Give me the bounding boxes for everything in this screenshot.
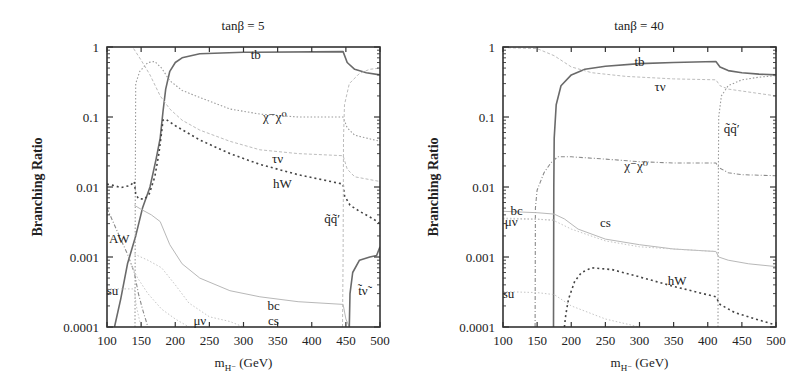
x-tick-label: 400 <box>698 333 718 348</box>
x-tick-label: 450 <box>336 333 356 348</box>
series-line-mu-nu <box>131 264 189 327</box>
curve-label-tau-nu: τν <box>654 79 665 94</box>
x-axis-label: mH⁻ (GeV) <box>215 355 273 373</box>
x-tick-label: 100 <box>97 333 117 348</box>
curve-label-chargino-neutralino: χ⁻χ⁰ <box>262 109 287 124</box>
y-tick-label: 0.0001 <box>459 320 495 335</box>
curve-label-tb: tb <box>634 54 644 69</box>
y-tick-label: 0.01 <box>472 180 495 195</box>
y-axis-label: Branching Ratio <box>426 137 441 236</box>
series-line-tb <box>554 62 777 328</box>
series-line-tb <box>115 52 381 327</box>
curve-label-chargino-neutralino: χ⁻χ⁰ <box>623 158 648 173</box>
curve-label-cs: cs <box>268 313 279 328</box>
x-axis-label-unit: (GeV) <box>236 355 272 370</box>
series-line-bc <box>134 205 349 327</box>
y-tick-label: 0.1 <box>479 110 495 125</box>
x-tick-label: 100 <box>493 333 513 348</box>
curve-label-tau-nu: τν <box>272 151 283 166</box>
x-tick-label: 400 <box>302 333 322 348</box>
x-tick-label: 500 <box>370 333 390 348</box>
curve-label-squark-squark: q̃q̃′ <box>324 211 340 226</box>
series-line-squark-squark <box>718 76 776 327</box>
curve-label-mu-nu: μν <box>193 313 206 328</box>
x-tick-label: 350 <box>664 333 684 348</box>
x-axis-label-main: m <box>611 355 621 370</box>
plot-frame <box>503 47 776 327</box>
curve-label-bc: bc <box>267 298 280 313</box>
series-line-hw <box>107 119 380 223</box>
x-tick-label: 150 <box>131 333 151 348</box>
y-tick-label: 0.1 <box>83 110 99 125</box>
x-tick-label: 500 <box>766 333 786 348</box>
curve-label-tb: tb <box>251 47 261 62</box>
x-axis-label: mH⁻ (GeV) <box>611 355 669 373</box>
x-axis-label-unit: (GeV) <box>632 355 668 370</box>
series-line-chargino-neutralino <box>535 157 776 327</box>
chart-title: tanβ = 5 <box>222 18 265 33</box>
x-axis-label-sub: H⁻ <box>225 363 236 373</box>
curve-label-hw: hW <box>273 176 293 191</box>
curve-label-stop-sneutrino: t̃ν̃ <box>358 283 373 298</box>
panel-tanbeta-5: tanβ = 510015020025030035040045050010.10… <box>30 18 390 373</box>
x-tick-label: 200 <box>166 333 186 348</box>
y-tick-label: 1 <box>489 40 496 55</box>
x-axis-label-main: m <box>215 355 225 370</box>
curve-label-hw: hW <box>668 273 688 288</box>
y-axis-label: Branching Ratio <box>30 137 45 236</box>
x-axis-label-sub: H⁻ <box>621 363 632 373</box>
series-line-su <box>503 292 640 327</box>
y-tick-label: 0.01 <box>76 180 99 195</box>
curve-label-mu-nu: μν <box>505 214 518 229</box>
curve-label-su: su <box>503 286 515 301</box>
x-tick-label: 150 <box>527 333 547 348</box>
x-tick-label: 250 <box>596 333 616 348</box>
x-tick-label: 300 <box>630 333 650 348</box>
series-group <box>107 49 380 327</box>
series-line-bc <box>503 211 776 266</box>
series-group <box>503 48 776 327</box>
series-line-cs <box>134 254 243 327</box>
y-tick-label: 1 <box>93 40 100 55</box>
curve-label-squark-squark: q̃q̃′ <box>724 121 740 136</box>
x-tick-label: 250 <box>200 333 220 348</box>
plot-frame <box>107 47 380 327</box>
y-tick-label: 0.001 <box>70 250 99 265</box>
branching-ratio-figure: tanβ = 510015020025030035040045050010.10… <box>0 0 802 383</box>
curve-label-cs: cs <box>600 215 611 230</box>
curve-label-aw: AW <box>109 231 130 246</box>
chart-title: tanβ = 40 <box>614 18 663 33</box>
x-tick-label: 200 <box>562 333 582 348</box>
y-tick-label: 0.0001 <box>63 320 99 335</box>
y-tick-label: 0.001 <box>466 250 495 265</box>
x-tick-label: 450 <box>732 333 752 348</box>
x-tick-label: 350 <box>268 333 288 348</box>
curve-label-su: su <box>107 283 119 298</box>
x-tick-label: 300 <box>234 333 254 348</box>
panel-tanbeta-40: tanβ = 4010015020025030035040045050010.1… <box>426 18 786 373</box>
